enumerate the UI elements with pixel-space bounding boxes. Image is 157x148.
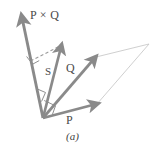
label-s: S	[45, 66, 51, 77]
figure-caption: (a)	[66, 131, 79, 142]
label-p-cross-q: P × Q	[30, 9, 59, 21]
vector-diagram-canvas	[0, 0, 157, 148]
vector-p-cross-q	[23, 20, 44, 118]
vector-cross-product-figure: P × Q S Q P (a)	[0, 0, 157, 148]
label-p: P	[66, 114, 73, 126]
dashed-perpendicular-line	[31, 46, 61, 61]
label-q: Q	[66, 62, 75, 74]
